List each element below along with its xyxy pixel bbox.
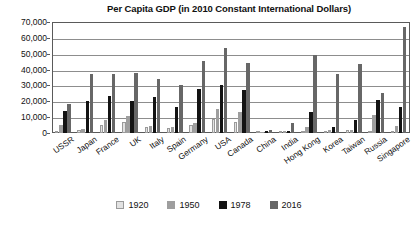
- bar: [372, 115, 375, 133]
- bar: [55, 131, 58, 133]
- bar: [224, 48, 227, 133]
- bar: [283, 131, 286, 133]
- bar: [100, 125, 103, 133]
- y-axis-tick-mark: [47, 54, 50, 55]
- bar: [77, 130, 80, 133]
- bar: [179, 85, 182, 133]
- bar: [130, 101, 133, 133]
- bar: [202, 61, 205, 133]
- bar: [112, 74, 115, 133]
- bar: [399, 107, 402, 133]
- per-capita-gdp-chart: Per Capita GDP (in 2010 Constant Interna…: [0, 0, 418, 229]
- bar-group: [164, 22, 186, 133]
- bar-group: [321, 22, 343, 133]
- bar: [189, 125, 192, 133]
- bar: [153, 97, 156, 133]
- legend-label: 1978: [231, 200, 251, 210]
- bar: [197, 89, 200, 133]
- chart-legend: 1920195019782016: [0, 200, 418, 210]
- bar: [381, 93, 384, 133]
- y-axis-tick-label: 50,000: [21, 49, 47, 59]
- bar-group: [119, 22, 141, 133]
- x-axis-label: Taiwan: [340, 134, 367, 157]
- bar-group: [74, 22, 96, 133]
- bar-group: [52, 22, 74, 133]
- y-axis-tick-mark: [47, 85, 50, 86]
- y-axis-tick-label: 20,000: [21, 96, 47, 106]
- y-axis-tick-label: 30,000: [21, 80, 47, 90]
- bar: [313, 55, 316, 133]
- bar: [291, 123, 294, 133]
- bar: [391, 131, 394, 133]
- bar: [216, 109, 219, 133]
- y-axis-tick-mark: [47, 133, 50, 134]
- legend-swatch-icon: [270, 201, 278, 209]
- y-axis-tick-label: 10,000: [21, 112, 47, 122]
- bar: [104, 120, 107, 133]
- bar: [122, 122, 125, 133]
- bar: [220, 85, 223, 133]
- bar: [246, 63, 249, 133]
- bar: [238, 112, 241, 133]
- bar: [134, 73, 137, 133]
- bar: [287, 131, 290, 133]
- bar: [242, 90, 245, 133]
- legend-label: 2016: [282, 200, 302, 210]
- bar: [368, 131, 371, 133]
- bar: [256, 131, 259, 133]
- bar: [301, 131, 304, 133]
- bar-group: [343, 22, 365, 133]
- bar: [193, 123, 196, 133]
- bar: [108, 96, 111, 133]
- x-axis-label: France: [94, 134, 121, 157]
- bar: [305, 127, 308, 133]
- bar: [309, 112, 312, 133]
- legend-swatch-icon: [219, 201, 227, 209]
- bar: [145, 127, 148, 133]
- bar-group: [209, 22, 231, 133]
- y-axis-tick-mark: [47, 101, 50, 102]
- x-axis-label: Korea: [321, 134, 345, 155]
- y-axis-tick-label: 40,000: [21, 65, 47, 75]
- legend-label: 1920: [128, 200, 148, 210]
- bar: [324, 131, 327, 133]
- bar: [126, 116, 129, 133]
- bar: [81, 129, 84, 133]
- legend-swatch-icon: [167, 201, 175, 209]
- y-axis-tick-mark: [47, 70, 50, 71]
- x-axis-labels: USSRJapanFranceUKItalySpainGermanyUSACan…: [52, 134, 410, 192]
- legend-swatch-icon: [116, 201, 124, 209]
- bar-group: [142, 22, 164, 133]
- x-axis-label: China: [254, 134, 278, 155]
- bar: [234, 122, 237, 133]
- bars-layer: [52, 22, 410, 133]
- y-axis-tick-mark: [47, 22, 50, 23]
- bar-group: [231, 22, 253, 133]
- bar: [336, 74, 339, 133]
- x-axis-label: UK: [128, 134, 143, 149]
- bar-group: [276, 22, 298, 133]
- chart-title: Per Capita GDP (in 2010 Constant Interna…: [40, 3, 418, 14]
- bar: [90, 74, 93, 133]
- bar: [171, 127, 174, 133]
- bar: [279, 131, 282, 133]
- bar: [376, 100, 379, 133]
- y-axis-tick-mark: [47, 117, 50, 118]
- bar-group: [298, 22, 320, 133]
- bar-group: [253, 22, 275, 133]
- bar: [346, 130, 349, 133]
- bar: [395, 126, 398, 133]
- y-axis: 010,00020,00030,00040,00050,00060,00070,…: [0, 14, 50, 142]
- x-axis-label: Italy: [147, 134, 165, 151]
- bar: [403, 27, 406, 133]
- bar: [175, 107, 178, 133]
- bar: [212, 119, 215, 133]
- bar: [67, 104, 70, 133]
- bar: [157, 79, 160, 133]
- bar-group: [388, 22, 410, 133]
- x-axis-label: Japan: [74, 134, 98, 155]
- bar: [86, 101, 89, 133]
- legend-item: 1950: [167, 200, 199, 210]
- bar: [350, 130, 353, 133]
- bar-group: [97, 22, 119, 133]
